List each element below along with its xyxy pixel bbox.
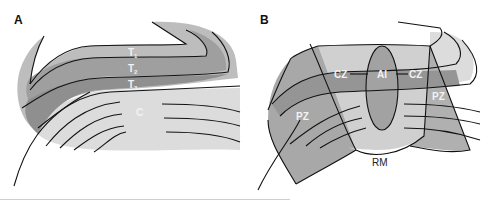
panel-b-label: B <box>260 13 269 27</box>
left-cz-label: CZ <box>334 69 347 80</box>
panel-a: A T1 T2 T3 C <box>14 13 240 186</box>
ai-label: AI <box>377 69 387 80</box>
panel-a-label: A <box>14 13 23 27</box>
ai-region <box>366 46 398 130</box>
diagram-canvas: A T1 T2 T3 C B <box>0 0 494 202</box>
bottom-rule <box>0 199 290 200</box>
left-pz-label: PZ <box>296 111 309 122</box>
core-c-label: C <box>136 107 143 118</box>
rm-label: RM <box>372 157 388 168</box>
panel-b: B CZ AI CZ <box>258 13 480 190</box>
right-cz-label: CZ <box>409 69 422 80</box>
right-pz-label: PZ <box>432 91 445 102</box>
